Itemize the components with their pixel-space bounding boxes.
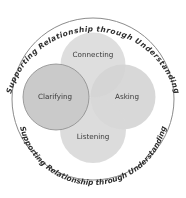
listening-label: Listening — [77, 132, 110, 141]
clarifying-label: Clarifying — [38, 92, 72, 101]
relationship-diagram: Connecting Clarifying Asking Listening S… — [0, 0, 186, 198]
asking-label: Asking — [115, 92, 139, 101]
connecting-label: Connecting — [73, 50, 114, 59]
diagram-canvas: Connecting Clarifying Asking Listening S… — [0, 0, 186, 198]
